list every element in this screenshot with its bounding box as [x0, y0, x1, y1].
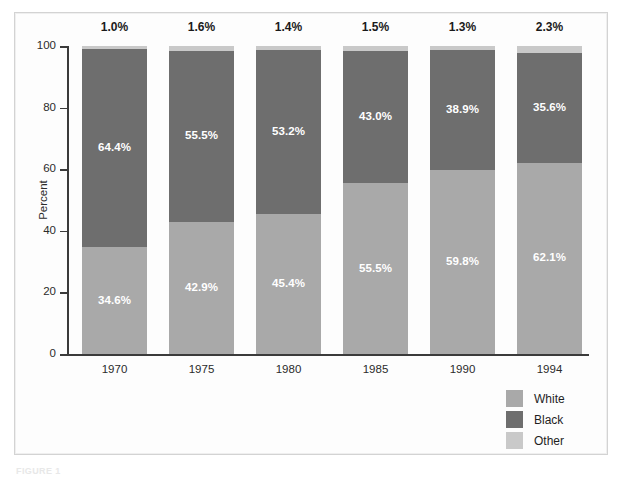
- segment-other-1994[interactable]: [517, 46, 582, 53]
- segment-label-white-1980: 45.4%: [256, 278, 321, 290]
- segment-black-1980[interactable]: 53.2%: [256, 50, 321, 214]
- segment-white-1980[interactable]: 45.4%: [256, 214, 321, 354]
- y-axis-line: [67, 46, 69, 354]
- x-axis-label-1975: 1975: [169, 364, 234, 376]
- bar-group-1994[interactable]: 2.3%62.1%35.6%1994: [517, 46, 582, 354]
- segment-other-1985[interactable]: [343, 46, 408, 51]
- stacked-bar[interactable]: 34.6%64.4%: [82, 46, 147, 354]
- y-tick-label: 0: [50, 348, 56, 360]
- stacked-bar[interactable]: 45.4%53.2%: [256, 46, 321, 354]
- segment-black-1985[interactable]: 43.0%: [343, 51, 408, 183]
- legend-label-other: Other: [534, 435, 564, 447]
- segment-other-1970[interactable]: [82, 46, 147, 49]
- bar-group-1985[interactable]: 1.5%55.5%43.0%1985: [343, 46, 408, 354]
- chart-legend: WhiteBlackOther: [506, 388, 606, 451]
- stacked-bar[interactable]: 59.8%38.9%: [430, 46, 495, 354]
- top-label-1990: 1.3%: [430, 21, 495, 33]
- legend-label-white: White: [534, 393, 565, 405]
- legend-item-white[interactable]: White: [506, 388, 606, 409]
- segment-black-1994[interactable]: 35.6%: [517, 53, 582, 163]
- legend-swatch-black: [506, 411, 523, 428]
- segment-label-white-1975: 42.9%: [169, 282, 234, 294]
- legend-item-black[interactable]: Black: [506, 409, 606, 430]
- y-tick-mark: [60, 46, 67, 48]
- segment-label-black-1994: 35.6%: [517, 102, 582, 114]
- segment-label-black-1975: 55.5%: [169, 130, 234, 142]
- segment-white-1985[interactable]: 55.5%: [343, 183, 408, 354]
- figure-frame: Percent 020406080100 1.0%34.6%64.4%19701…: [14, 12, 608, 455]
- y-tick-mark: [60, 231, 67, 233]
- segment-label-white-1970: 34.6%: [82, 295, 147, 307]
- y-tick-mark: [60, 108, 67, 110]
- bar-group-1970[interactable]: 1.0%34.6%64.4%1970: [82, 46, 147, 354]
- y-tick-label: 80: [43, 102, 56, 114]
- segment-black-1975[interactable]: 55.5%: [169, 51, 234, 222]
- y-tick-label: 20: [43, 287, 56, 299]
- top-label-1970: 1.0%: [82, 21, 147, 33]
- segment-other-1990[interactable]: [430, 46, 495, 50]
- segment-other-1975[interactable]: [169, 46, 234, 51]
- figure-caption: FIGURE 1: [16, 466, 61, 476]
- top-label-1985: 1.5%: [343, 21, 408, 33]
- top-label-1980: 1.4%: [256, 21, 321, 33]
- plot-area: Percent 020406080100 1.0%34.6%64.4%19701…: [67, 46, 589, 354]
- y-tick-label: 40: [43, 225, 56, 237]
- segment-other-1980[interactable]: [256, 46, 321, 50]
- bar-group-1980[interactable]: 1.4%45.4%53.2%1980: [256, 46, 321, 354]
- segment-black-1990[interactable]: 38.9%: [430, 50, 495, 170]
- stacked-bar[interactable]: 42.9%55.5%: [169, 46, 234, 354]
- segment-label-black-1970: 64.4%: [82, 142, 147, 154]
- x-axis-label-1994: 1994: [517, 364, 582, 376]
- segment-label-white-1990: 59.8%: [430, 256, 495, 268]
- segment-label-black-1980: 53.2%: [256, 126, 321, 138]
- bar-group-1975[interactable]: 1.6%42.9%55.5%1975: [169, 46, 234, 354]
- legend-item-other[interactable]: Other: [506, 430, 606, 451]
- bar-group-1990[interactable]: 1.3%59.8%38.9%1990: [430, 46, 495, 354]
- y-tick-mark: [60, 354, 67, 356]
- segment-label-black-1990: 38.9%: [430, 104, 495, 116]
- top-label-1975: 1.6%: [169, 21, 234, 33]
- x-axis-label-1980: 1980: [256, 364, 321, 376]
- legend-swatch-white: [506, 390, 523, 407]
- x-axis-label-1990: 1990: [430, 364, 495, 376]
- segment-black-1970[interactable]: 64.4%: [82, 49, 147, 247]
- legend-label-black: Black: [534, 414, 563, 426]
- segment-label-black-1985: 43.0%: [343, 111, 408, 123]
- y-tick-label: 60: [43, 163, 56, 175]
- segment-label-white-1985: 55.5%: [343, 263, 408, 275]
- y-tick-mark: [60, 169, 67, 171]
- stacked-bar[interactable]: 55.5%43.0%: [343, 46, 408, 354]
- stacked-bar[interactable]: 62.1%35.6%: [517, 46, 582, 354]
- y-tick-mark: [60, 292, 67, 294]
- y-tick-label: 100: [37, 40, 56, 52]
- segment-label-white-1994: 62.1%: [517, 252, 582, 264]
- segment-white-1994[interactable]: 62.1%: [517, 163, 582, 354]
- segment-white-1975[interactable]: 42.9%: [169, 222, 234, 354]
- segment-white-1990[interactable]: 59.8%: [430, 170, 495, 354]
- x-axis-label-1970: 1970: [82, 364, 147, 376]
- x-axis-label-1985: 1985: [343, 364, 408, 376]
- x-axis-line: [67, 354, 589, 356]
- legend-swatch-other: [506, 432, 523, 449]
- segment-white-1970[interactable]: 34.6%: [82, 247, 147, 354]
- top-label-1994: 2.3%: [517, 21, 582, 33]
- y-axis-title: Percent: [37, 180, 49, 220]
